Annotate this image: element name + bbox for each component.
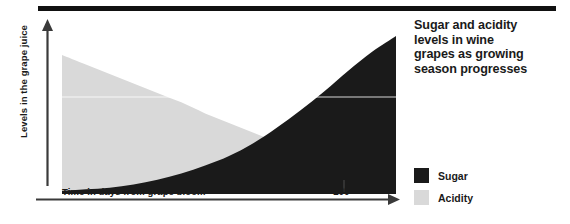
legend-swatch-acidity (414, 190, 429, 205)
chart-title-line-2: levels in wine (414, 33, 566, 48)
chart-figure: Levels in the grape juice Time in days f… (0, 0, 570, 224)
chart-title-line-1: Sugar and acidity (414, 18, 566, 33)
y-axis-label: Levels in the grape juice (18, 7, 29, 157)
chart-title-line-4: season progresses (414, 62, 566, 77)
chart-title-line-3: grapes as growing (414, 47, 566, 62)
legend-item-sugar[interactable]: Sugar (414, 168, 564, 183)
chart-title: Sugar and acidity levels in wine grapes … (414, 18, 566, 76)
right-panel: Sugar and acidity levels in wine grapes … (414, 0, 570, 224)
x-axis-label: Time in days from grape bloom (62, 186, 206, 197)
x-axis-tick-label-100: 100 (333, 186, 350, 197)
legend-item-acidity[interactable]: Acidity (414, 190, 564, 205)
legend-label-acidity: Acidity (438, 192, 473, 204)
chart-legend: Sugar Acidity (414, 168, 564, 212)
legend-label-sugar: Sugar (438, 170, 468, 182)
legend-swatch-sugar (414, 168, 429, 183)
x-axis-arrow-icon (388, 194, 400, 205)
chart-svg (0, 14, 405, 214)
plot-area: Levels in the grape juice Time in days f… (0, 14, 405, 214)
y-axis-arrow-icon (42, 19, 53, 31)
